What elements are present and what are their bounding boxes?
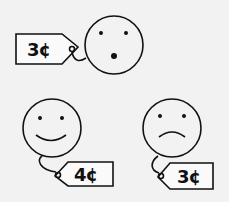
surprised-face-icon bbox=[85, 16, 143, 74]
price-label: 4¢ bbox=[74, 166, 97, 184]
happy-face-icon bbox=[23, 99, 81, 157]
illustration: 3¢ 4¢ 3¢ bbox=[0, 0, 229, 202]
price-label: 3¢ bbox=[177, 168, 200, 186]
sad-face-icon bbox=[143, 99, 201, 157]
price-label: 3¢ bbox=[27, 41, 50, 59]
